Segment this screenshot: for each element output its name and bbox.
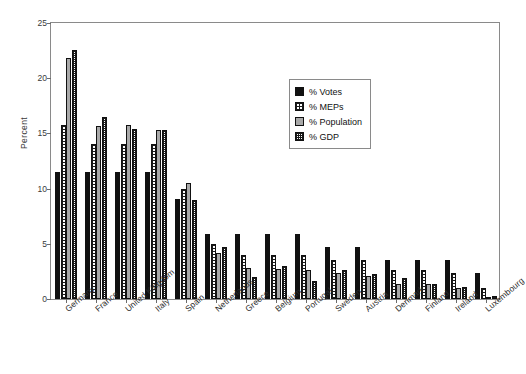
bar-group xyxy=(81,23,111,299)
bar-group xyxy=(321,23,351,299)
y-tick-mark xyxy=(47,299,51,300)
bar-group xyxy=(51,23,81,299)
bar xyxy=(85,172,90,299)
bar xyxy=(151,144,156,299)
bar xyxy=(55,172,60,299)
bar-group xyxy=(381,23,411,299)
bar-group xyxy=(171,23,201,299)
bar xyxy=(456,288,461,299)
bar xyxy=(271,255,276,299)
bar xyxy=(102,117,107,299)
legend-swatch-icon xyxy=(295,117,304,126)
bar xyxy=(192,200,197,299)
bar xyxy=(91,144,96,299)
bar xyxy=(72,50,77,300)
chart-legend: % Votes% MEPs% Population% GDP xyxy=(289,79,371,149)
legend-item[interactable]: % Votes xyxy=(295,84,362,99)
legend-label: % GDP xyxy=(309,132,339,142)
bar xyxy=(186,183,191,299)
bar-group xyxy=(261,23,291,299)
y-axis-title: Percent xyxy=(19,29,29,149)
bar xyxy=(61,125,66,299)
bar xyxy=(126,125,131,299)
bar xyxy=(115,172,120,299)
bar-group xyxy=(111,23,141,299)
y-tick-label: 20 xyxy=(29,73,47,83)
bar xyxy=(205,234,210,299)
bar xyxy=(396,284,401,299)
legend-item[interactable]: % GDP xyxy=(295,129,362,144)
bar xyxy=(181,189,186,299)
y-tick-label: 25 xyxy=(29,18,47,28)
bar xyxy=(175,199,180,299)
bar-group xyxy=(441,23,471,299)
bar xyxy=(96,126,101,299)
bar xyxy=(366,276,371,299)
plot-area: Percent 0510152025 xyxy=(50,22,500,300)
bar xyxy=(145,172,150,299)
bar xyxy=(451,273,456,299)
bar-group xyxy=(351,23,381,299)
bar xyxy=(276,269,281,299)
bar xyxy=(222,247,227,299)
legend-swatch-icon xyxy=(295,87,304,96)
bar xyxy=(336,273,341,299)
bar-group xyxy=(201,23,231,299)
bar xyxy=(306,270,311,299)
bar xyxy=(391,270,396,299)
bar xyxy=(426,284,431,299)
bar xyxy=(211,244,216,299)
legend-item[interactable]: % Population xyxy=(295,114,362,129)
legend-label: % MEPs xyxy=(309,102,344,112)
legend-item[interactable]: % MEPs xyxy=(295,99,362,114)
y-tick-label: 10 xyxy=(29,184,47,194)
bar xyxy=(216,253,221,299)
legend-swatch-icon xyxy=(295,102,304,111)
bar-group xyxy=(411,23,441,299)
y-tick-label: 0 xyxy=(29,294,47,304)
bar xyxy=(121,144,126,299)
bar xyxy=(132,129,137,299)
legend-swatch-icon xyxy=(295,132,304,141)
bar xyxy=(481,288,486,299)
bar-group xyxy=(141,23,171,299)
y-tick-label: 5 xyxy=(29,239,47,249)
bar-group xyxy=(291,23,321,299)
y-tick-label: 15 xyxy=(29,128,47,138)
legend-label: % Votes xyxy=(309,87,342,97)
bar xyxy=(66,58,71,299)
legend-label: % Population xyxy=(309,117,362,127)
bar-group xyxy=(231,23,261,299)
bar-group xyxy=(471,23,501,299)
